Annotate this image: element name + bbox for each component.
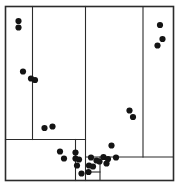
- data-point: [20, 68, 26, 74]
- data-point: [126, 107, 132, 113]
- data-point: [72, 149, 78, 155]
- data-point: [15, 24, 21, 30]
- data-point: [108, 142, 114, 148]
- partition-frame-outer: [6, 7, 174, 181]
- scatter-partition-figure: [0, 0, 180, 188]
- data-point: [154, 42, 160, 48]
- data-point: [90, 163, 96, 169]
- plot-surface: [0, 0, 180, 188]
- data-point: [103, 160, 109, 166]
- data-point: [32, 77, 38, 83]
- data-point: [57, 148, 63, 154]
- data-point: [15, 18, 21, 24]
- data-point: [130, 114, 136, 120]
- data-point: [113, 154, 119, 160]
- partition-lines-group: [6, 7, 174, 181]
- data-point: [78, 170, 84, 176]
- data-point: [159, 36, 165, 42]
- data-point: [85, 169, 91, 175]
- partition-scatter-svg: [0, 0, 180, 188]
- data-point: [49, 123, 55, 129]
- data-point: [74, 162, 80, 168]
- data-point: [157, 22, 163, 28]
- data-point: [96, 158, 102, 164]
- data-point: [41, 125, 47, 131]
- data-point: [76, 156, 82, 162]
- data-point: [61, 155, 67, 161]
- data-point: [88, 154, 94, 160]
